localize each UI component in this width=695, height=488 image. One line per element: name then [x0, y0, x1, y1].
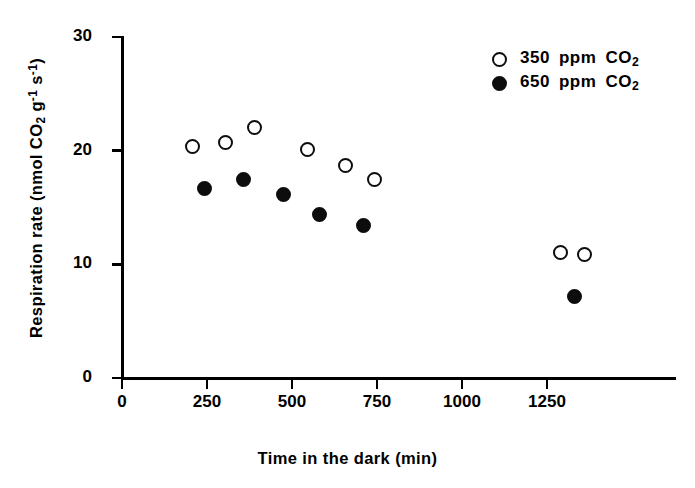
data-point-filled-circle — [236, 172, 251, 187]
y-tick-mark — [112, 149, 122, 152]
y-tick-label: 20 — [0, 140, 92, 160]
data-point-open-circle — [338, 158, 353, 173]
x-tick-mark — [376, 379, 379, 389]
data-point-filled-circle — [356, 218, 371, 233]
y-tick-label: 0 — [0, 367, 92, 387]
y-tick-mark — [112, 263, 122, 266]
legend-label: 650 ppm CO2 — [520, 72, 639, 93]
legend-entry: 350 ppm CO2 — [492, 47, 639, 71]
legend-gas-subscript: 2 — [632, 80, 639, 94]
y-tick-mark — [112, 36, 122, 39]
legend-entry: 650 ppm CO2 — [492, 71, 639, 95]
data-point-open-circle — [247, 120, 262, 135]
data-point-filled-circle — [197, 181, 212, 196]
legend-open-circle-icon — [492, 52, 507, 67]
x-tick-mark — [291, 379, 294, 389]
legend-amount: 350 ppm CO — [520, 48, 632, 67]
data-point-open-circle — [367, 172, 382, 187]
data-point-filled-circle — [276, 187, 291, 202]
x-tick-label: 0 — [82, 392, 162, 412]
x-tick-mark — [546, 379, 549, 389]
x-tick-label: 1250 — [507, 392, 587, 412]
x-tick-label: 750 — [337, 392, 417, 412]
x-tick-label: 250 — [167, 392, 247, 412]
x-tick-mark — [206, 379, 209, 389]
data-point-open-circle — [218, 135, 233, 150]
y-tick-label: 30 — [0, 26, 92, 46]
data-point-open-circle — [577, 247, 592, 262]
legend-label: 350 ppm CO2 — [520, 48, 639, 69]
x-tick-mark — [121, 379, 124, 389]
legend-filled-circle-icon — [492, 76, 507, 91]
x-tick-mark — [461, 379, 464, 389]
data-point-filled-circle — [312, 207, 327, 222]
y-axis-line — [121, 36, 124, 379]
legend: 350 ppm CO2650 ppm CO2 — [492, 47, 639, 95]
respiration-rate-chart: Respiration rate (nmol CO2 g-1 s-1) Time… — [0, 0, 695, 488]
data-point-open-circle — [185, 139, 200, 154]
data-point-filled-circle — [567, 289, 582, 304]
x-tick-label: 500 — [252, 392, 332, 412]
y-tick-label: 10 — [0, 253, 92, 273]
x-tick-label: 1000 — [422, 392, 502, 412]
legend-gas-subscript: 2 — [632, 56, 639, 70]
data-point-open-circle — [300, 142, 315, 157]
x-axis-line — [121, 377, 676, 380]
legend-amount: 650 ppm CO — [520, 72, 632, 91]
data-point-open-circle — [553, 245, 568, 260]
